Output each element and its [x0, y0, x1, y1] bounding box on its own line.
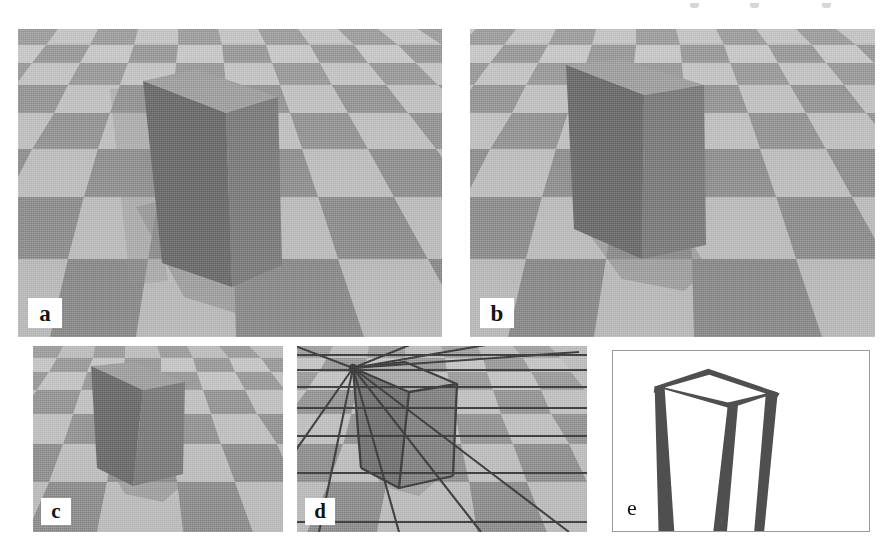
checkerboard-floor [297, 346, 587, 532]
box-object [143, 69, 282, 287]
clipped-text-remnant [690, 0, 870, 10]
box-left-face [566, 65, 644, 259]
panel-label-b: b [480, 298, 514, 328]
panel-label-c: c [41, 498, 71, 525]
panel-label-a: a [28, 298, 62, 328]
box-right-face [642, 85, 706, 259]
checkerboard-floor [470, 29, 875, 337]
box-object [566, 59, 706, 259]
box-right-face [226, 97, 282, 287]
panel-d: d [297, 346, 587, 532]
panel-a: a [18, 29, 442, 337]
panel-b: b [470, 29, 875, 337]
panel-label-d: d [305, 498, 335, 525]
box-edge-sketch [654, 369, 780, 531]
figure-root: a [0, 0, 895, 560]
panel-e: e [612, 350, 870, 532]
panel-label-e: e [627, 495, 653, 521]
vanishing-point-marker [349, 364, 357, 372]
checkerboard-floor [18, 29, 442, 337]
panel-d-render [297, 346, 587, 532]
box-object [91, 362, 185, 486]
panel-a-render [18, 29, 442, 337]
panel-c: c [33, 346, 283, 532]
panel-b-render [470, 29, 875, 337]
